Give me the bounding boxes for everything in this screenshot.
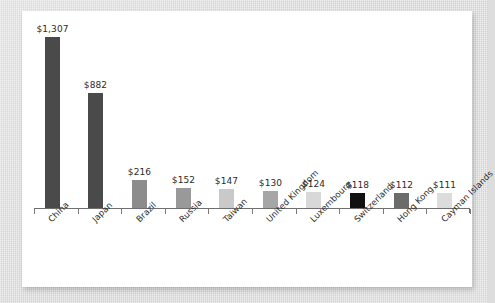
axis-tick (34, 209, 35, 214)
axis-tick (383, 209, 384, 214)
bar-value-label: $216 (120, 167, 159, 177)
axis-tick (252, 209, 253, 214)
bar-japan[interactable] (88, 93, 103, 208)
bar-value-label: $152 (164, 175, 203, 185)
bar-china[interactable] (45, 37, 60, 208)
axis-tick (165, 209, 166, 214)
bar-value-label: $147 (207, 176, 246, 186)
axis-tick (296, 209, 297, 214)
bar-value-label: $1,307 (33, 24, 72, 34)
axis-tick (339, 209, 340, 214)
chart-panel: $1,307$882$216$152$147$130$124$118$112$1… (22, 11, 472, 287)
bar-chart: $1,307$882$216$152$147$130$124$118$112$1… (22, 11, 472, 287)
bar-value-label: $882 (76, 80, 115, 90)
axis-tick (78, 209, 79, 214)
axis-tick (470, 209, 471, 214)
axis-tick (121, 209, 122, 214)
bar-value-label: $130 (251, 178, 290, 188)
bar-brazil[interactable] (132, 180, 147, 208)
axis-tick (426, 209, 427, 214)
axis-tick (208, 209, 209, 214)
